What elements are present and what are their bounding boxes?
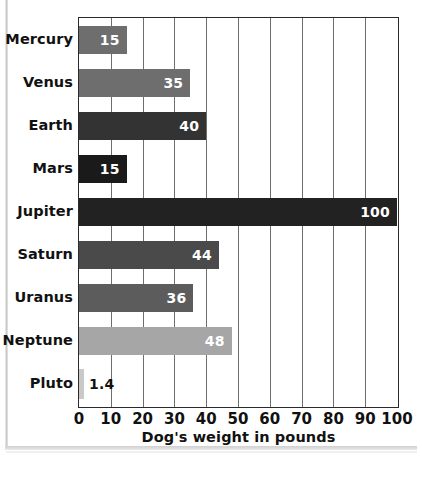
category-label-uranus: Uranus	[14, 276, 73, 319]
bar[interactable]: 40	[79, 112, 206, 140]
bar-row: 36	[79, 277, 398, 320]
bar-value-label: 48	[205, 334, 232, 348]
x-tick-80: 80	[323, 410, 344, 428]
bar-row: 15	[79, 147, 398, 190]
bar-row: 1.4	[79, 363, 398, 406]
bar[interactable]: 48	[79, 327, 232, 355]
bar-row: 48	[79, 320, 398, 363]
x-tick-10: 10	[100, 410, 121, 428]
bar[interactable]: 15	[79, 155, 127, 183]
bar-value-label: 1.4	[84, 377, 114, 391]
page-edge-bottom-shadow	[6, 451, 417, 453]
x-tick-50: 50	[228, 410, 249, 428]
bar[interactable]: 36	[79, 284, 193, 312]
x-tick-90: 90	[355, 410, 376, 428]
bar[interactable]: 100	[79, 198, 397, 226]
bar-value-label: 100	[360, 205, 397, 219]
x-tick-0: 0	[74, 410, 84, 428]
x-tick-40: 40	[196, 410, 217, 428]
category-label-mercury: Mercury	[5, 17, 73, 60]
bar[interactable]: 15	[79, 26, 127, 54]
bar-value-label: 44	[192, 248, 219, 262]
x-tick-70: 70	[291, 410, 312, 428]
bar-value-label: 36	[167, 291, 194, 305]
bar-row: 100	[79, 190, 398, 233]
bar-row: 40	[79, 104, 398, 147]
category-label-neptune: Neptune	[3, 319, 73, 362]
x-axis-title: Dog's weight in pounds	[78, 429, 399, 445]
category-label-mars: Mars	[33, 146, 73, 189]
category-label-saturn: Saturn	[17, 233, 73, 276]
category-label-earth: Earth	[28, 103, 73, 146]
category-label-venus: Venus	[23, 60, 73, 103]
plot-area: 153540151004436481.4	[78, 17, 399, 408]
bar-value-label: 35	[163, 76, 190, 90]
scanned-page: MercuryVenusEarthMarsJupiterSaturnUranus…	[0, 0, 422, 477]
x-tick-30: 30	[164, 410, 185, 428]
category-label-jupiter: Jupiter	[17, 189, 73, 232]
bar-row: 15	[79, 18, 398, 61]
bar-row: 35	[79, 61, 398, 104]
bar[interactable]: 35	[79, 69, 190, 97]
bar[interactable]: 1.4	[79, 369, 84, 399]
category-axis-labels: MercuryVenusEarthMarsJupiterSaturnUranus…	[0, 17, 73, 408]
bar-chart: MercuryVenusEarthMarsJupiterSaturnUranus…	[0, 0, 422, 450]
bar-rows: 153540151004436481.4	[79, 18, 398, 407]
bar-row: 44	[79, 234, 398, 277]
bar-value-label: 40	[179, 119, 206, 133]
bar-value-label: 15	[100, 162, 127, 176]
x-tick-100: 100	[381, 410, 412, 428]
bar[interactable]: 44	[79, 241, 219, 269]
x-tick-20: 20	[132, 410, 153, 428]
x-tick-60: 60	[259, 410, 280, 428]
bar-value-label: 15	[100, 33, 127, 47]
category-label-pluto: Pluto	[30, 362, 73, 405]
